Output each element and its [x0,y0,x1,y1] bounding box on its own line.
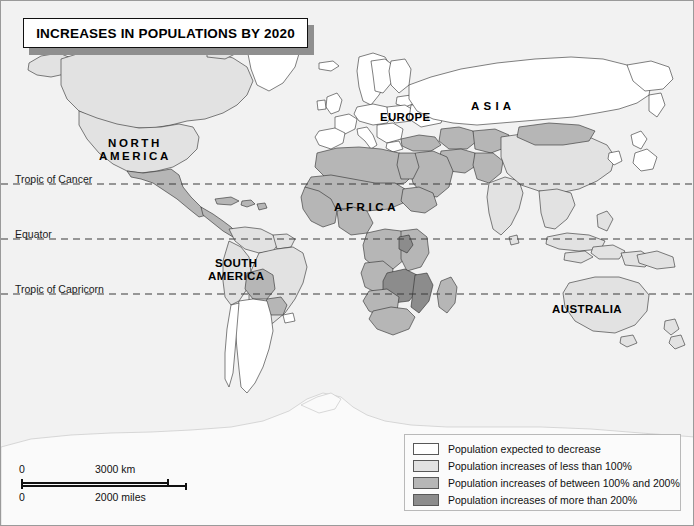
continent-label-south-america: SOUTH AMERICA [208,257,264,283]
legend-swatch-less-than-100 [413,460,439,472]
legend-swatch-between-100-200 [413,477,439,489]
legend-label-between-100-200: Population increases of between 100% and… [448,477,680,489]
scale-miles-line [21,485,185,487]
continent-label-line2: AMERICA [208,270,264,283]
continent-label-line2: AMERICA [99,150,171,163]
scale-miles-value: 2000 miles [95,491,146,503]
continent-label-asia: ASIA [471,100,515,113]
scale-km-value: 3000 km [95,463,135,475]
continent-label-north-america: NORTH AMERICA [99,137,171,163]
title-box: INCREASES IN POPULATIONS BY 2020 [23,18,308,48]
legend-label-more-than-200: Population increases of more than 200% [448,494,637,506]
map-legend: Population expected to decrease Populati… [404,434,681,511]
legend-item-less-than-100: Population increases of less than 100% [413,458,672,474]
scale-km-row: 0 3000 km [19,463,194,478]
legend-swatch-decrease [413,443,439,455]
scale-km-zero: 0 [19,463,25,475]
page-title: INCREASES IN POPULATIONS BY 2020 [36,26,295,41]
label-tropic-of-cancer: Tropic of Cancer [15,173,92,185]
map-figure: .land{stroke:#4a4a4a;stroke-width:.7;str… [0,0,694,526]
scale-tick-miles-end [185,483,187,490]
continent-label-line1: SOUTH [208,257,264,270]
label-equator: Equator [15,228,52,240]
scale-tick-start [21,479,23,489]
legend-label-less-than-100: Population increases of less than 100% [448,460,632,472]
scale-bar-graphic [19,479,194,490]
continent-label-africa: AFRICA [334,201,399,214]
legend-item-decrease: Population expected to decrease [413,441,672,457]
scale-miles-zero: 0 [19,491,25,503]
scale-km-line [21,482,169,484]
continent-label-australia: AUSTRALIA [552,303,622,316]
scale-bar: 0 3000 km 0 2000 miles [19,463,194,505]
label-tropic-of-capricorn: Tropic of Capricorn [15,283,104,295]
continent-label-line1: NORTH [99,137,171,150]
scale-tick-km-end [167,479,169,486]
map-title-plate: INCREASES IN POPULATIONS BY 2020 [23,18,308,48]
legend-label-decrease: Population expected to decrease [448,443,601,455]
continent-label-europe: EUROPE [380,111,430,124]
legend-item-between-100-200: Population increases of between 100% and… [413,475,672,491]
legend-swatch-more-than-200 [413,494,439,506]
legend-item-more-than-200: Population increases of more than 200% [413,492,672,508]
scale-miles-row: 0 2000 miles [19,490,194,505]
